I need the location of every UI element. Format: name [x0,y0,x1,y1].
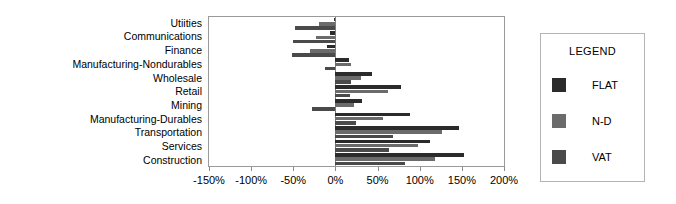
bar-group [209,112,504,126]
bar-vat [335,80,350,84]
x-tick-label: -100% [235,174,267,186]
bar-flat [330,31,335,35]
bar-flat [335,153,464,157]
bar-group [209,152,504,166]
plot-inner [209,17,504,166]
bar-vat [293,40,335,44]
bar-vat [335,162,404,166]
category-label: Retail [8,85,206,99]
bar-flat [335,126,459,130]
bar-n-d [335,157,434,161]
bar-n-d [335,144,418,148]
bar-flat [327,45,335,49]
legend-label: FLAT [592,79,618,91]
x-tick [335,167,336,171]
bar-n-d [316,36,335,40]
chart-page: UtiitiesCommunicationsFinanceManufacturi… [0,0,676,204]
x-tick-label: -150% [193,174,225,186]
plot-area [208,16,505,167]
category-label: Utiities [8,16,206,30]
bar-group [209,44,504,58]
bar-vat [325,67,335,71]
legend-entry: VAT [541,146,644,168]
bar-vat [335,135,392,139]
bar-n-d [335,63,350,67]
category-label: Construction [8,153,206,167]
x-tick [209,167,210,171]
bar-group [209,125,504,139]
bar-group [209,17,504,31]
x-tick [420,167,421,171]
category-label: Manufacturing-Durables [8,112,206,126]
bar-vat [295,26,335,30]
x-tick-label: 0% [327,174,343,186]
category-label: Communications [8,30,206,44]
x-axis: -150%-100%-50%0%50%100%150%200% [208,167,505,199]
bar-n-d [335,117,383,121]
category-label: Services [8,140,206,154]
bar-flat [335,140,429,144]
legend-label: VAT [592,151,612,163]
x-tick-label: 50% [367,174,389,186]
bar-flat [335,72,371,76]
bar-n-d [335,90,387,94]
x-tick [251,167,252,171]
bar-group [209,31,504,45]
legend-label: N-D [592,115,612,127]
legend-title: LEGEND [541,45,644,57]
bar-flat [335,58,348,62]
x-tick [378,167,379,171]
bar-vat [335,121,355,125]
bar-flat [335,99,362,103]
bar-vat [335,148,388,152]
bar-vat [312,107,336,111]
legend-entry: N-D [541,110,644,132]
x-tick [462,167,463,171]
category-label: Manufacturing-Nondurables [8,57,206,71]
category-label: Wholesale [8,71,206,85]
bar-group [209,85,504,99]
x-tick-label: 150% [448,174,476,186]
category-label: Transportation [8,126,206,140]
bar-n-d [335,76,360,80]
bar-group [209,71,504,85]
legend-swatch-vat [552,150,566,164]
bar-chart: UtiitiesCommunicationsFinanceManufacturi… [0,0,520,204]
bar-group [209,58,504,72]
legend-box: LEGEND FLATN-DVAT [540,33,645,182]
x-tick-label: -50% [280,174,306,186]
bar-n-d [319,22,336,26]
x-tick-label: 100% [406,174,434,186]
bar-vat [292,53,336,57]
category-label: Finance [8,43,206,57]
bar-vat [335,94,349,98]
bar-n-d [335,103,354,107]
bar-flat [335,113,409,117]
legend-swatch-flat [552,78,566,92]
bar-n-d [335,130,441,134]
bar-n-d [310,49,335,53]
category-label: Mining [8,98,206,112]
x-tick-label: 200% [490,174,518,186]
category-axis-labels: UtiitiesCommunicationsFinanceManufacturi… [8,16,206,167]
x-tick [293,167,294,171]
x-tick [504,167,505,171]
bar-group [209,98,504,112]
bar-flat [334,18,336,22]
legend-entry: FLAT [541,74,644,96]
bar-flat [335,85,401,89]
bar-group [209,139,504,153]
legend-swatch-n-d [552,114,566,128]
